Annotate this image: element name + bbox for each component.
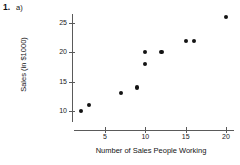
y-axis-title: Sales (in $1000): [19, 17, 28, 113]
y-tick-mark: [69, 82, 75, 83]
data-point: [159, 50, 163, 54]
y-tick-label: 10: [51, 107, 67, 114]
data-point: [87, 103, 91, 107]
data-point: [192, 39, 196, 43]
x-axis-title: Number of Sales People Working: [62, 146, 240, 155]
y-tick-mark: [69, 111, 75, 112]
y-axis-line: [72, 14, 73, 122]
y-tick-label: 15: [51, 78, 67, 85]
x-tick-label: 10: [137, 133, 153, 140]
scatter-plot: 10152025 5101520 Sales (in $1000) Number…: [0, 0, 240, 165]
data-point: [79, 109, 83, 113]
x-tick-label: 20: [218, 133, 234, 140]
data-point: [184, 39, 188, 43]
x-tick-label: 5: [97, 133, 113, 140]
data-point: [135, 85, 139, 89]
worksheet-page: 1. a) 10152025 5101520 Sales (in $1000) …: [0, 0, 240, 165]
y-tick-label: 25: [51, 19, 67, 26]
data-point: [224, 15, 228, 19]
y-tick-mark: [69, 23, 75, 24]
data-point: [143, 62, 147, 66]
y-tick-label: 20: [51, 48, 67, 55]
data-point: [143, 50, 147, 54]
data-point: [119, 91, 123, 95]
y-tick-mark: [69, 52, 75, 53]
x-tick-label: 15: [178, 133, 194, 140]
x-axis-line: [74, 130, 234, 131]
